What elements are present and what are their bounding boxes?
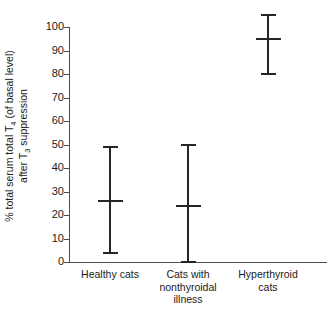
y-axis-title: % total serum total T4 (of basal level) … bbox=[0, 0, 34, 272]
errorbar-lower-cap bbox=[261, 73, 276, 75]
x-axis-category-label-line: Cats with bbox=[145, 268, 231, 281]
y-axis-title-line1-tail: (of basal level) bbox=[3, 50, 15, 121]
y-axis-title-line2-tail: suppression bbox=[17, 89, 29, 149]
x-axis-category-label-line: nonthyroidal bbox=[145, 281, 231, 294]
y-axis-tick-label: 0 bbox=[36, 256, 64, 267]
y-axis-tick-mark bbox=[64, 239, 69, 240]
errorbar-lower-cap bbox=[181, 261, 196, 263]
x-axis-category-label: Cats withnonthyroidalillness bbox=[145, 268, 231, 306]
y-axis-title-line2-text: after T bbox=[17, 153, 29, 183]
errorbar-upper-cap bbox=[103, 146, 118, 148]
x-axis-category-label: Hyperthyroidcats bbox=[225, 268, 311, 293]
y-axis-tick-mark bbox=[64, 192, 69, 193]
y-axis-tick-mark bbox=[64, 98, 69, 99]
errorbar-upper-cap bbox=[181, 144, 196, 146]
y-axis-tick-mark bbox=[64, 51, 69, 52]
y-axis-tick-labels: 1009080706050403020100 bbox=[36, 0, 64, 312]
y-axis-tick-label: 60 bbox=[36, 115, 64, 126]
y-axis-tick-label: 50 bbox=[36, 139, 64, 150]
y-axis-title-line1-text: % total serum total T bbox=[3, 126, 15, 222]
errorbar-stem bbox=[187, 145, 189, 263]
y-axis-tick-mark bbox=[64, 168, 69, 169]
y-axis-tick-label: 80 bbox=[36, 68, 64, 79]
y-axis-title-line2-subscript: 3 bbox=[23, 149, 32, 153]
y-axis-tick-label: 40 bbox=[36, 162, 64, 173]
y-axis-tick-label: 20 bbox=[36, 209, 64, 220]
y-axis-line bbox=[69, 27, 70, 263]
x-axis-category-label: Healthy cats bbox=[67, 268, 153, 281]
x-axis-category-label-line: cats bbox=[225, 281, 311, 294]
errorbar-mean-marker bbox=[176, 205, 201, 207]
y-axis-tick-label: 70 bbox=[36, 92, 64, 103]
errorbar-mean-marker bbox=[256, 38, 281, 40]
y-axis-tick-mark bbox=[64, 145, 69, 146]
errorbar-group bbox=[248, 0, 288, 312]
y-axis-tick-label: 30 bbox=[36, 186, 64, 197]
errorbar-mean-marker bbox=[98, 200, 123, 202]
y-axis-tick-mark bbox=[64, 74, 69, 75]
x-axis-category-label-line: Healthy cats bbox=[67, 268, 153, 281]
chart-figure: % total serum total T4 (of basal level) … bbox=[0, 0, 334, 312]
y-axis-tick-mark bbox=[64, 121, 69, 122]
x-axis-category-label-line: illness bbox=[145, 293, 231, 306]
y-axis-tick-mark bbox=[64, 262, 69, 263]
y-axis-tick-mark bbox=[64, 27, 69, 28]
errorbar-upper-cap bbox=[261, 14, 276, 16]
y-axis-tick-label: 100 bbox=[36, 21, 64, 32]
y-axis-tick-label: 90 bbox=[36, 45, 64, 56]
x-axis-category-label-line: Hyperthyroid bbox=[225, 268, 311, 281]
errorbar-lower-cap bbox=[103, 252, 118, 254]
errorbar-stem bbox=[267, 15, 269, 74]
errorbar-group bbox=[168, 0, 208, 312]
y-axis-title-line1-subscript: 4 bbox=[9, 121, 18, 125]
errorbar-group bbox=[90, 0, 130, 312]
y-axis-tick-mark bbox=[64, 215, 69, 216]
y-axis-tick-label: 10 bbox=[36, 233, 64, 244]
